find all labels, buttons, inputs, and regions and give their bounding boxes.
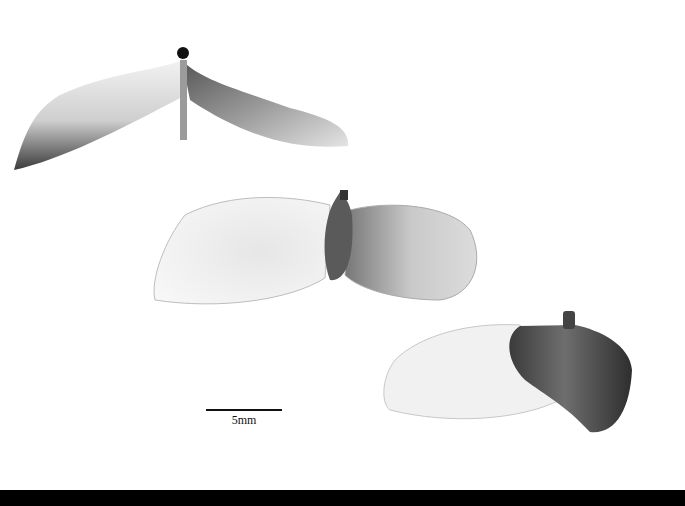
samara-middle: [154, 190, 477, 304]
scale-label: 5mm: [206, 413, 282, 428]
scale-bar: [206, 409, 282, 411]
bottom-black-band: [0, 490, 685, 506]
samara-bottom: [384, 311, 632, 432]
specimen-photo: 5mm: [0, 0, 685, 490]
specimen-illustration: [0, 0, 685, 490]
samara-top: [14, 47, 348, 170]
